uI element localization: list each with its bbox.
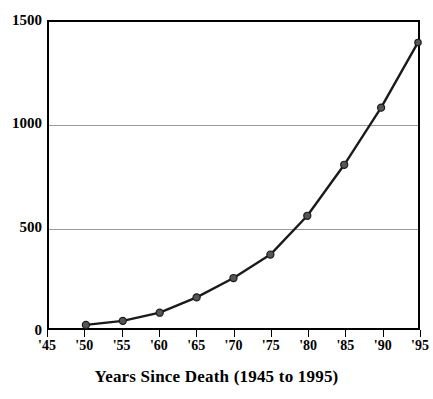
data-series-line [49, 22, 418, 328]
data-point-'90 [378, 104, 385, 111]
series-markers [82, 39, 421, 328]
x-tick-label-'75: '75 [262, 339, 280, 353]
series-polyline [86, 42, 418, 325]
x-tickmark-'50 [84, 330, 85, 337]
x-tick-label-'70: '70 [225, 339, 243, 353]
x-tickmark-'55 [122, 330, 123, 337]
x-tickmark-'90 [383, 330, 384, 337]
x-axis-title: Years Since Death (1945 to 1995) [0, 367, 433, 387]
data-point-'85 [341, 161, 348, 168]
data-point-'95 [415, 39, 421, 45]
data-point-'50 [82, 321, 89, 328]
chart-figure: 050010001500 '45'50'55'60'65'70'75'80'85… [0, 0, 433, 399]
y-tick-label-1500: 1500 [12, 13, 42, 28]
data-point-'55 [119, 317, 126, 324]
x-tick-label-'85: '85 [336, 339, 354, 353]
x-tickmark-'85 [345, 330, 346, 337]
x-tick-label-'55: '55 [113, 339, 131, 353]
x-tick-label-'45: '45 [38, 339, 56, 353]
x-tickmark-'65 [196, 330, 197, 337]
data-point-'65 [193, 294, 200, 301]
x-tick-label-'60: '60 [150, 339, 168, 353]
y-tick-label-1000: 1000 [12, 116, 42, 131]
x-tick-label-'95: '95 [411, 339, 429, 353]
x-tick-label-'65: '65 [187, 339, 205, 353]
x-tick-label-'80: '80 [299, 339, 317, 353]
y-tick-label-0: 0 [35, 323, 43, 338]
y-tick-label-500: 500 [20, 219, 43, 234]
x-tickmark-'45 [47, 330, 48, 337]
x-tick-label-'50: '50 [75, 339, 93, 353]
data-point-'80 [304, 212, 311, 219]
x-tickmark-'70 [234, 330, 235, 337]
x-tickmark-'75 [271, 330, 272, 337]
data-point-'60 [156, 309, 163, 316]
x-tickmark-'95 [420, 330, 421, 337]
data-point-'70 [230, 274, 237, 281]
x-tickmark-'60 [159, 330, 160, 337]
x-tick-label-'90: '90 [374, 339, 392, 353]
y-axis-tick-labels: 050010001500 [0, 20, 42, 330]
data-point-'75 [267, 251, 274, 258]
x-axis-ticks: '45'50'55'60'65'70'75'80'85'90'95 [47, 330, 420, 360]
plot-area [47, 20, 420, 330]
x-tickmark-'80 [308, 330, 309, 337]
